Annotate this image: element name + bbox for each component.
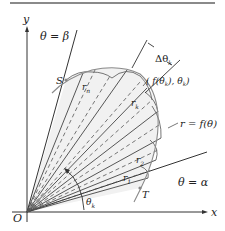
curve-label: r = f(θ) xyxy=(180,118,217,129)
y-axis-label: y xyxy=(22,13,30,26)
alpha-ray-label: θ = α xyxy=(178,176,209,189)
curve-leader xyxy=(168,123,178,128)
delta-theta-label: Δθk xyxy=(155,53,172,66)
origin-label: O xyxy=(13,212,22,225)
y-axis-arrow-icon xyxy=(25,26,29,32)
point-k-label: ( f(θk), θk) xyxy=(146,76,190,87)
polar-area-diagram: y x O θ = β θ = α S T rn rk r2 r1 Δθk ( … xyxy=(0,0,225,231)
point-s xyxy=(64,78,67,81)
x-axis-label: x xyxy=(211,206,218,219)
s-label: S xyxy=(56,75,63,86)
x-axis-arrow-icon xyxy=(202,210,208,214)
beta-ray-label: θ = β xyxy=(40,30,69,43)
t-label: T xyxy=(142,189,150,200)
theta-k-label: θk xyxy=(86,197,95,209)
